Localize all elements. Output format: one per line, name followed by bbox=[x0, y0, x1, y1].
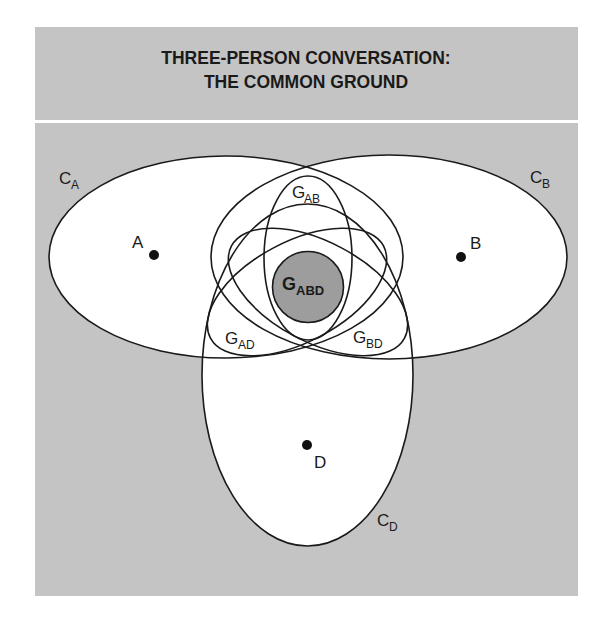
context-ca-sub: A bbox=[71, 178, 79, 192]
person-b-dot bbox=[456, 252, 466, 262]
context-cd-main: C bbox=[377, 511, 389, 530]
ground-ad-sub: AD bbox=[238, 338, 255, 352]
context-ca-main: C bbox=[59, 169, 71, 188]
context-cb-sub: B bbox=[542, 177, 550, 191]
person-a-dot bbox=[149, 250, 159, 260]
context-cd-sub: D bbox=[389, 520, 398, 534]
title-line-2: THE COMMON GROUND bbox=[204, 72, 408, 92]
diagram-panel: A B D C A C B C D G AB G AD G BD G bbox=[35, 123, 578, 596]
context-cb-main: C bbox=[530, 168, 542, 187]
person-b-label: B bbox=[470, 234, 481, 253]
person-d-label: D bbox=[314, 453, 326, 472]
ground-ad-main: G bbox=[225, 329, 238, 348]
title-panel: THREE-PERSON CONVERSATION: THE COMMON GR… bbox=[35, 27, 578, 120]
common-ground-diagram: THREE-PERSON CONVERSATION: THE COMMON GR… bbox=[0, 0, 609, 618]
person-a-label: A bbox=[132, 233, 144, 252]
ground-abd-main: G bbox=[282, 274, 296, 294]
ground-abd-sub: ABD bbox=[296, 283, 324, 298]
title-line-1: THREE-PERSON CONVERSATION: bbox=[161, 48, 450, 68]
ground-bd-main: G bbox=[353, 328, 366, 347]
ground-bd-sub: BD bbox=[366, 337, 383, 351]
ground-ab-sub: AB bbox=[304, 192, 320, 206]
person-d-dot bbox=[302, 440, 312, 450]
